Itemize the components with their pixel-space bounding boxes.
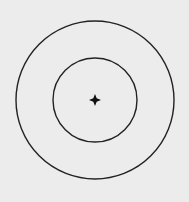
concentric-circles-diagram	[0, 0, 189, 202]
center-point-marker-icon	[89, 94, 101, 106]
diagram-canvas	[0, 0, 189, 202]
